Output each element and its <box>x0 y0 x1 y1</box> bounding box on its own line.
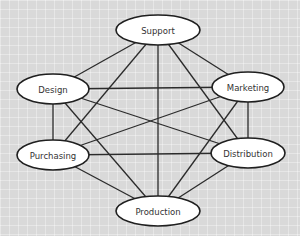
network-diagram: SupportDesignMarketingPurchasingDistribu… <box>0 0 300 241</box>
node-label: Marketing <box>227 83 269 93</box>
node-label: Design <box>38 85 67 95</box>
node-label: Purchasing <box>30 151 77 161</box>
node-support: Support <box>116 15 200 45</box>
node-production: Production <box>116 196 200 226</box>
node-design: Design <box>17 74 89 104</box>
node-label: Production <box>135 207 180 217</box>
node-marketing: Marketing <box>212 72 284 102</box>
node-label: Distribution <box>223 149 273 159</box>
node-purchasing: Purchasing <box>17 140 89 170</box>
node-distribution: Distribution <box>211 138 285 168</box>
diagram-canvas: SupportDesignMarketingPurchasingDistribu… <box>0 0 300 241</box>
edge-layer <box>53 30 248 211</box>
node-label: Support <box>141 26 175 36</box>
